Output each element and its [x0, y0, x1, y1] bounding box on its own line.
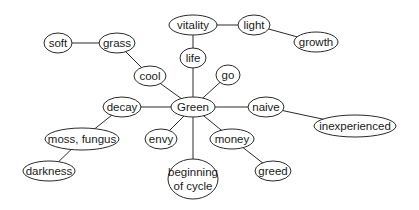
mind-map-diagram: Greenlifevitalitylightgrowthgocoolgrasss… — [0, 0, 419, 210]
node-label: envy — [149, 133, 174, 145]
node-label: go — [222, 69, 235, 81]
node-go: go — [216, 65, 240, 85]
node-label: vitality — [177, 19, 209, 31]
node-naive: naive — [248, 97, 284, 117]
node-light: light — [238, 15, 270, 35]
node-label: greed — [258, 165, 287, 177]
node-label: light — [243, 19, 265, 31]
node-decay: decay — [103, 97, 141, 117]
node-cool: cool — [134, 66, 166, 86]
node-label: life — [186, 52, 201, 64]
node-label: beginning — [168, 166, 218, 178]
node-label: Green — [177, 101, 209, 113]
node-moss-fungus: moss, fungus — [45, 128, 119, 150]
node-label: soft — [49, 37, 68, 49]
node-label: naive — [252, 101, 280, 113]
node-ellipse — [168, 159, 218, 199]
node-label: moss, fungus — [48, 133, 117, 145]
node-inexperienced: inexperienced — [314, 115, 396, 137]
node-soft: soft — [44, 33, 72, 53]
node-darkness: darkness — [23, 161, 75, 181]
node-label: decay — [107, 101, 138, 113]
node-label: inexperienced — [319, 120, 391, 132]
node-label: cool — [139, 70, 160, 82]
node-label: darkness — [26, 165, 73, 177]
node-grass: grass — [99, 33, 135, 53]
node-label: grass — [103, 37, 131, 49]
node-growth: growth — [294, 32, 338, 52]
mind-map-canvas: Greenlifevitalitylightgrowthgocoolgrasss… — [0, 0, 419, 210]
node-beginning-of-cycle: beginningof cycle — [168, 159, 218, 199]
node-greed: greed — [255, 161, 291, 181]
node-green: Green — [171, 97, 215, 117]
node-vitality: vitality — [169, 15, 217, 35]
node-envy: envy — [145, 129, 177, 149]
node-label: money — [215, 133, 250, 145]
node-life: life — [180, 48, 206, 68]
node-label: of cycle — [174, 180, 213, 192]
node-label: growth — [299, 36, 334, 48]
node-money: money — [210, 129, 254, 149]
